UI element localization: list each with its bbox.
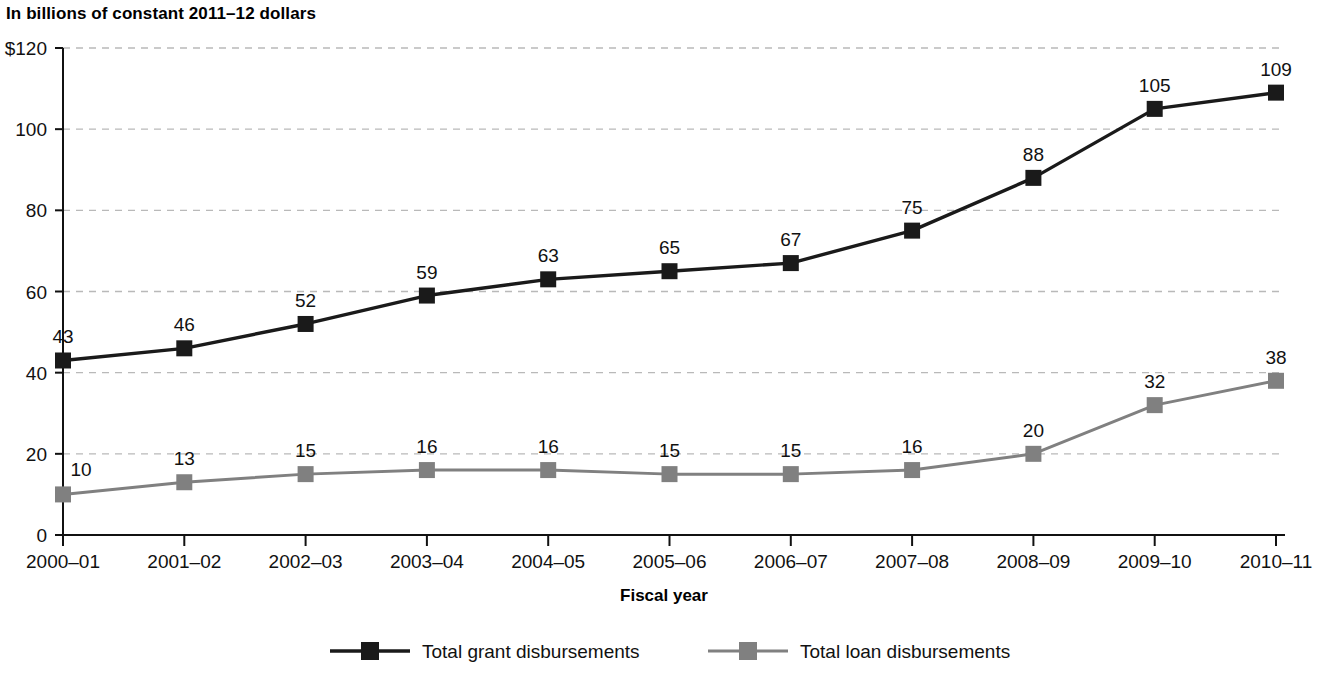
data-point-marker [419,462,435,478]
y-tick-label: 100 [15,119,47,140]
data-point-marker [176,474,192,490]
x-tick-label: 2002–03 [269,551,343,572]
x-tick-label: 2001–02 [147,551,221,572]
x-tick-label: 2005–06 [633,551,707,572]
x-tick-label: 2008–09 [996,551,1070,572]
x-tick-label: 2010–11 [1240,551,1313,572]
x-tick-label: 2009–10 [1118,551,1192,572]
data-point-label: 20 [1023,420,1044,441]
x-tick-label: 2007–08 [875,551,949,572]
legend-label: Total grant disbursements [422,641,640,662]
data-point-label: 10 [70,459,91,480]
y-tick-label: 60 [26,282,47,303]
data-point-label: 16 [902,436,923,457]
data-point-label: 15 [659,440,680,461]
data-point-marker [1268,85,1284,101]
data-point-marker [904,462,920,478]
data-point-label: 105 [1139,75,1171,96]
data-point-marker [540,462,556,478]
legend-marker-swatch [361,642,379,660]
data-point-marker [540,271,556,287]
data-point-marker [783,255,799,271]
y-tick-label: 80 [26,200,47,221]
series-lines-group [63,93,1276,495]
y-tick-label: 0 [36,525,47,546]
chart-legend: Total grant disbursementsTotal loan disb… [330,641,1010,662]
data-point-label: 67 [780,229,801,250]
data-point-label: 13 [174,448,195,469]
y-tick-label: $120 [5,38,47,59]
data-point-marker [55,352,71,368]
data-point-label: 43 [52,326,73,347]
data-point-label: 46 [174,314,195,335]
y-tick-label: 40 [26,363,47,384]
data-point-marker [1025,446,1041,462]
data-point-marker [904,223,920,239]
legend-marker-swatch [739,642,757,660]
data-point-label: 52 [295,290,316,311]
x-tick-label: 2006–07 [754,551,828,572]
data-point-label: 59 [416,262,437,283]
data-point-label: 38 [1265,347,1286,368]
chart-container: In billions of constant 2011–12 dollars … [0,0,1329,690]
x-axis-ticks-group [63,535,1276,546]
data-point-marker [783,466,799,482]
x-tick-label: 2004–05 [511,551,585,572]
x-tick-label: 2000–01 [26,551,100,572]
data-point-marker [176,340,192,356]
data-point-label: 109 [1260,59,1292,80]
x-tick-labels-group: 2000–012001–022002–032003–042004–052005–… [26,551,1312,572]
x-tick-label: 2003–04 [390,551,464,572]
data-point-label: 16 [538,436,559,457]
data-point-label: 75 [902,197,923,218]
data-point-label: 16 [416,436,437,457]
x-axis-title: Fiscal year [620,586,708,605]
data-point-marker [1268,373,1284,389]
data-point-label: 32 [1144,371,1165,392]
data-point-marker [419,288,435,304]
y-tick-label: 20 [26,444,47,465]
series-line [63,93,1276,361]
data-point-label: 88 [1023,144,1044,165]
data-point-label: 15 [780,440,801,461]
y-axis-ticks-group: 020406080100$120 [5,38,63,546]
data-point-marker [55,486,71,502]
data-point-label: 15 [295,440,316,461]
data-point-marker [298,466,314,482]
data-point-label: 63 [538,245,559,266]
data-point-marker [1147,397,1163,413]
line-chart-svg: 020406080100$120 43465259636567758810510… [0,0,1329,690]
data-point-marker [1147,101,1163,117]
data-point-marker [298,316,314,332]
data-point-label: 65 [659,237,680,258]
data-point-marker [662,466,678,482]
data-point-marker [1025,170,1041,186]
data-point-marker [662,263,678,279]
legend-label: Total loan disbursements [800,641,1010,662]
